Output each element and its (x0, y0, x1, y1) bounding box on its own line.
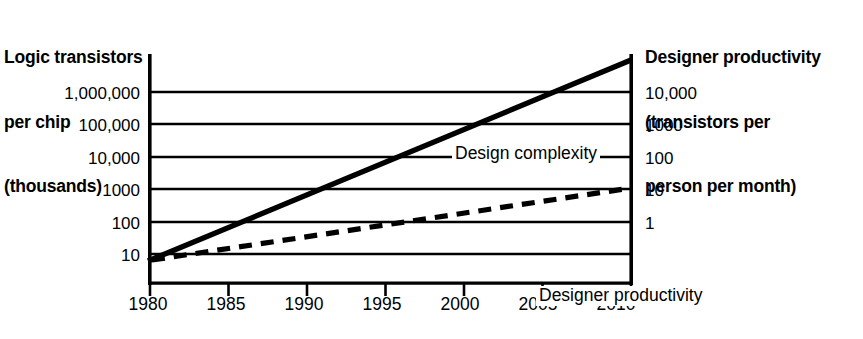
right-axis-tick-1000: 1000 (645, 117, 683, 134)
x-axis-tick-1995: 1995 (347, 296, 417, 313)
right-axis-title-line-1: Designer productivity (645, 47, 821, 69)
right-axis-tick-10000: 10,000 (645, 85, 697, 102)
plot-svg (148, 58, 633, 285)
right-axis-tick-1: 1 (645, 215, 654, 232)
x-axis-tick-2000: 2000 (425, 296, 495, 313)
left-axis-tick-10: 10 (8, 247, 140, 264)
chart-figure: Logic transistors per chip (thousands) D… (0, 0, 863, 339)
left-axis-title-line-1: Logic transistors (4, 47, 143, 69)
right-axis-tick-10: 10 (645, 182, 664, 199)
series-line-designer-productivity (152, 188, 631, 260)
right-axis-title-line-3: person per month) (645, 176, 821, 198)
x-axis-tick-1985: 1985 (191, 296, 261, 313)
left-axis-tick-100000: 100,000 (8, 117, 140, 134)
left-axis-tick-10000: 10,000 (8, 150, 140, 167)
left-axis-tick-100: 100 (8, 215, 140, 232)
annotation-design-complexity: Design complexity (452, 144, 600, 164)
x-axis-tick-1980: 1980 (113, 296, 183, 313)
plot-area: Design complexity Designer productivity (148, 58, 633, 285)
left-axis-tick-1000: 1000 (8, 182, 140, 199)
annotation-designer-productivity: Designer productivity (536, 286, 705, 306)
x-axis-tick-1990: 1990 (269, 296, 339, 313)
left-axis-tick-1000000: 1,000,000 (8, 85, 140, 102)
right-axis-tick-100: 100 (645, 150, 673, 167)
